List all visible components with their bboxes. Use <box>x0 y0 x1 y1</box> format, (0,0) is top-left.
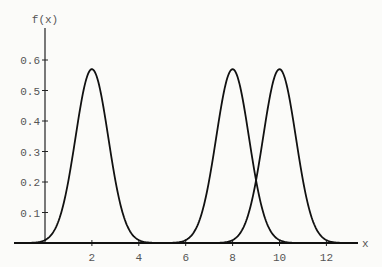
x-axis-label: x <box>362 238 369 250</box>
chart: 246810120.10.20.30.40.50.6xf(x) <box>0 0 382 267</box>
x-tick-label: 10 <box>273 252 286 264</box>
y-tick-label: 0.6 <box>20 55 40 67</box>
x-tick-label: 12 <box>320 252 333 264</box>
curves <box>14 69 358 243</box>
y-tick-label: 0.5 <box>20 86 40 98</box>
density-curve <box>14 69 358 243</box>
density-curve <box>14 69 358 243</box>
density-curve <box>14 69 358 243</box>
x-tick-label: 8 <box>229 252 236 264</box>
y-axis-label: f(x) <box>32 14 58 26</box>
x-tick-label: 4 <box>135 252 142 264</box>
x-tick-label: 2 <box>89 252 96 264</box>
y-tick-label: 0.2 <box>20 177 40 189</box>
x-tick-label: 6 <box>182 252 189 264</box>
y-tick-label: 0.4 <box>20 116 40 128</box>
y-tick-label: 0.1 <box>20 208 40 220</box>
y-tick-label: 0.3 <box>20 147 40 159</box>
